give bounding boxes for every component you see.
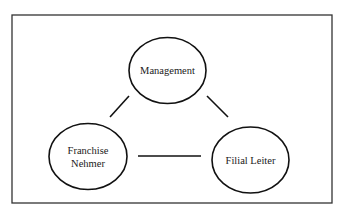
node-management: Management — [129, 38, 206, 104]
node-label: Franchise — [68, 145, 109, 156]
node-label: Management — [140, 65, 195, 76]
node-ellipse — [49, 124, 127, 190]
node-label: Filial Leiter — [226, 155, 276, 166]
relationship-diagram: ManagementFranchiseNehmerFilial Leiter — [0, 0, 342, 212]
node-franchise-nehmer: FranchiseNehmer — [49, 124, 127, 190]
node-filial-leiter: Filial Leiter — [212, 127, 289, 193]
node-label: Nehmer — [71, 158, 105, 169]
